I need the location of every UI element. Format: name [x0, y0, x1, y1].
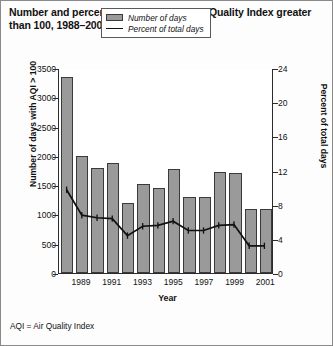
- y-axis-right-tick-0: 0: [278, 269, 302, 279]
- y-axis-right-tickmark-20: [273, 103, 278, 104]
- y-axis-right-title: Percent of total days: [319, 31, 329, 221]
- y-axis-right-tick-4: 4: [278, 235, 302, 245]
- line-swatch-icon: [106, 28, 123, 29]
- y-axis-right-tick-16: 16: [278, 132, 302, 142]
- x-axis-tick-1993: 1993: [133, 277, 152, 287]
- bar-swatch-icon: [106, 14, 123, 21]
- y-axis-right-tickmark-8: [273, 206, 278, 207]
- x-axis-tick-1997: 1997: [194, 277, 213, 287]
- y-axis-left-tick-500: 500: [22, 240, 56, 250]
- y-axis-right-tickmark-0: [273, 274, 278, 275]
- y-axis-right-tickmark-12: [273, 172, 278, 173]
- y-axis-left-tick-0: 0: [22, 269, 56, 279]
- line-series: [59, 69, 272, 273]
- y-axis-left-tick-1500: 1500: [22, 181, 56, 191]
- y-axis-right-tick-20: 20: [278, 98, 302, 108]
- y-axis-right-tick-12: 12: [278, 167, 302, 177]
- x-axis-title: Year: [1, 293, 333, 303]
- y-axis-left-tick-3000: 3000: [22, 93, 56, 103]
- chart-legend: Number of days Percent of total days: [101, 8, 211, 38]
- y-axis-left-tick-2500: 2500: [22, 123, 56, 133]
- y-axis-right-tick-24: 24: [278, 64, 302, 74]
- x-axis-tick-1991: 1991: [102, 277, 121, 287]
- x-axis-tick-1989: 1989: [72, 277, 91, 287]
- chart-figure: Number and percentage of days with Air Q…: [0, 0, 333, 346]
- y-axis-right-tickmark-16: [273, 137, 278, 138]
- legend-item-percent-of-total-days: Percent of total days: [106, 23, 204, 34]
- y-axis-right-tickmark-4: [273, 240, 278, 241]
- legend-item-number-of-days: Number of days: [106, 12, 204, 23]
- x-axis-tick-2001: 2001: [256, 277, 275, 287]
- y-axis-left-tick-3500: 3500: [22, 64, 56, 74]
- y-axis-right-tickmark-24: [273, 69, 278, 70]
- plot-area: [58, 69, 273, 274]
- legend-label-percent-of-total-days: Percent of total days: [128, 24, 204, 34]
- chart-footnote: AQI = Air Quality Index: [10, 321, 94, 331]
- y-axis-left-tick-2000: 2000: [22, 152, 56, 162]
- y-axis-right-tick-8: 8: [278, 201, 302, 211]
- legend-label-number-of-days: Number of days: [128, 13, 187, 23]
- y-axis-left-tick-1000: 1000: [22, 210, 56, 220]
- x-axis-tick-1999: 1999: [225, 277, 244, 287]
- x-axis-tick-1995: 1995: [164, 277, 183, 287]
- y-axis-left-tickmark-0: [53, 274, 58, 275]
